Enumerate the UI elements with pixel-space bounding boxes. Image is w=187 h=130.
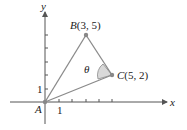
label-B: B(3, 5) — [70, 19, 101, 32]
label-C: C(5, 2) — [117, 69, 149, 82]
label-A: A — [34, 103, 42, 115]
segment-AB — [45, 35, 86, 102]
x-axis-label: x — [169, 96, 175, 108]
svg-text:C(5, 2): C(5, 2) — [117, 69, 149, 82]
angle-theta-label: θ — [84, 63, 90, 75]
x-tick-label-1: 1 — [57, 104, 63, 116]
svg-text:B(3, 5): B(3, 5) — [70, 19, 101, 32]
triangle-diagram: y x 1 1 A B(3, 5) C(5, 2) θ — [0, 0, 187, 130]
y-axis-label: y — [40, 0, 46, 12]
segment-AC — [45, 75, 112, 102]
point-A — [43, 100, 47, 104]
point-C — [110, 73, 114, 77]
point-B — [84, 33, 88, 37]
y-tick-label-1: 1 — [37, 83, 43, 95]
